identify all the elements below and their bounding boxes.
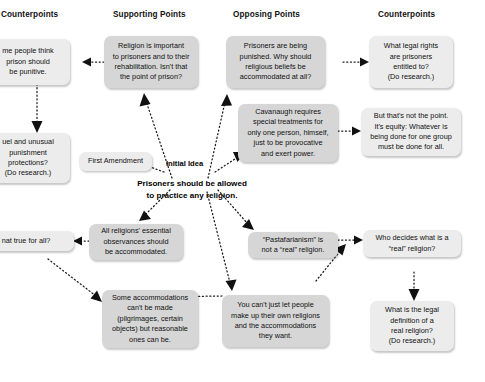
node-all-religions-essential-observances[interactable]: All religions' essential observances sho… — [89, 224, 183, 260]
node-first-amendment[interactable]: First Amendment — [79, 152, 152, 171]
node-who-decides-what-is-real-religion[interactable]: Who decides what is a “real” religion? — [363, 230, 461, 257]
node-legal-definition-of-real-religion[interactable]: What is the legal definition of a real r… — [370, 301, 454, 351]
column-header-counterpoints-left: Counterpoints — [1, 10, 58, 19]
column-header-opposing-points: Opposing Points — [233, 10, 300, 19]
node-pastafarianism-not-real-religion[interactable]: “Pastafarianism” is not a “real” religio… — [248, 232, 338, 258]
initial-idea-statement: Prisoners should be allowed to practice … — [126, 178, 258, 201]
node-religion-is-important[interactable]: Religion is important to prisoners and t… — [104, 36, 198, 88]
initial-idea-label: Initial Idea — [166, 159, 203, 168]
node-is-that-true-for-all[interactable]: nat true for all? — [0, 231, 74, 251]
node-cannot-let-people-make-up-religions[interactable]: You can't just let people make up their … — [222, 295, 329, 347]
node-but-thats-not-the-point-equity[interactable]: But that's not the point. It's equity: W… — [361, 108, 461, 156]
node-some-accommodations-cannot-be-made[interactable]: Some accommodations can't be made (pilgr… — [102, 290, 198, 348]
node-cruel-and-unusual-punishment[interactable]: uel and unusual punishment protections? … — [0, 133, 70, 183]
node-what-legal-rights-prisoners-entitled[interactable]: What legal rights are prisoners entitled… — [369, 36, 453, 88]
argument-map-diagram: Counterpoints Supporting Points Opposing… — [0, 0, 485, 382]
node-prisoners-are-being-punished[interactable]: Prisoners are being punished. Why should… — [226, 36, 325, 88]
column-header-counterpoints-right: Counterpoints — [378, 10, 435, 19]
column-header-supporting-points: Supporting Points — [113, 10, 186, 19]
node-some-people-think-prison-punitive[interactable]: me people think prison should be punitiv… — [0, 39, 70, 85]
node-cavanaugh-requires-special-treatments[interactable]: Cavanaugh requires special treatments fo… — [238, 104, 338, 162]
